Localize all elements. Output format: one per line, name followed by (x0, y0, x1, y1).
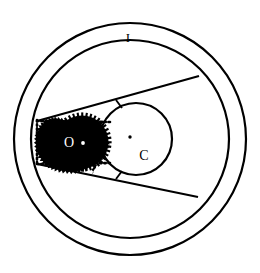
center-dot-c (128, 135, 131, 138)
label-occluder-o: O (64, 135, 74, 150)
geometry-diagram: I O C (0, 0, 260, 273)
tangent-tick-lower (116, 171, 122, 179)
diagram-canvas: I O C (0, 0, 260, 273)
circle-c (100, 103, 172, 175)
label-outer-annulus: I (126, 30, 130, 45)
center-dot-o (81, 141, 85, 145)
label-circle-c: C (139, 148, 148, 163)
